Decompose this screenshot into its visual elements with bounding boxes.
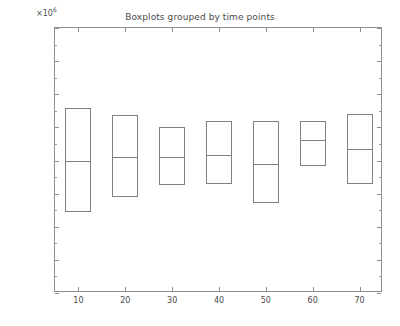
y-axis-tick bbox=[55, 127, 59, 128]
boxplot-median-line bbox=[65, 161, 91, 162]
y-axis-minor-tick bbox=[55, 144, 57, 145]
y-axis-minor-tick bbox=[379, 78, 381, 79]
x-axis-tick-label: 40 bbox=[204, 296, 234, 305]
x-axis-tick bbox=[360, 28, 361, 32]
y-axis-minor-tick bbox=[379, 243, 381, 244]
y-axis-tick bbox=[377, 161, 381, 162]
plot-area: 3.532.521.510.50-0.5 10203040506070 bbox=[54, 27, 382, 292]
boxplot-median-line bbox=[253, 164, 279, 165]
x-axis-tick-label: 10 bbox=[63, 296, 93, 305]
y-axis-minor-tick bbox=[379, 111, 381, 112]
boxplot-box bbox=[112, 115, 138, 196]
x-axis-tick bbox=[78, 28, 79, 32]
boxplot-median-line bbox=[206, 155, 232, 156]
y-axis-minor-tick bbox=[379, 210, 381, 211]
y-axis-tick bbox=[377, 61, 381, 62]
y-axis-tick bbox=[377, 293, 381, 294]
y-axis-tick bbox=[55, 61, 59, 62]
y-axis-minor-tick bbox=[55, 276, 57, 277]
boxplot-box bbox=[253, 121, 279, 203]
boxplot-box bbox=[206, 121, 232, 184]
y-axis-tick bbox=[55, 161, 59, 162]
x-axis-tick bbox=[313, 287, 314, 291]
y-axis-minor-tick bbox=[379, 144, 381, 145]
x-axis-tick bbox=[313, 28, 314, 32]
boxplot-median-line bbox=[300, 140, 326, 141]
y-axis-minor-tick bbox=[379, 276, 381, 277]
x-axis-tick bbox=[360, 287, 361, 291]
x-axis-tick-label: 50 bbox=[251, 296, 281, 305]
y-axis-minor-tick bbox=[55, 45, 57, 46]
y-axis-tick bbox=[377, 28, 381, 29]
exponent-power: 6 bbox=[53, 6, 57, 13]
boxplot-box bbox=[159, 127, 185, 185]
exponent-base: ×10 bbox=[36, 9, 53, 18]
x-axis-tick bbox=[219, 28, 220, 32]
x-axis-tick-label: 60 bbox=[298, 296, 328, 305]
y-axis-exponent-label: ×106 bbox=[36, 9, 57, 18]
boxplot-median-line bbox=[159, 157, 185, 158]
y-axis-minor-tick bbox=[379, 45, 381, 46]
x-axis-tick-label: 20 bbox=[110, 296, 140, 305]
boxplot-box bbox=[300, 121, 326, 166]
y-axis-tick bbox=[55, 293, 59, 294]
x-axis-tick-label: 70 bbox=[345, 296, 375, 305]
x-axis-tick bbox=[125, 287, 126, 291]
y-axis-tick bbox=[55, 227, 59, 228]
x-axis-tick-label: 30 bbox=[157, 296, 187, 305]
x-axis-tick bbox=[125, 28, 126, 32]
x-axis-tick bbox=[78, 287, 79, 291]
y-axis-minor-tick bbox=[55, 111, 57, 112]
y-axis-minor-tick bbox=[379, 177, 381, 178]
y-axis-tick bbox=[377, 227, 381, 228]
y-axis-tick bbox=[377, 194, 381, 195]
y-axis-tick bbox=[55, 28, 59, 29]
x-axis-tick bbox=[266, 287, 267, 291]
x-axis-tick bbox=[266, 28, 267, 32]
chart-title: Boxplots grouped by time points bbox=[0, 12, 400, 22]
y-axis-minor-tick bbox=[55, 210, 57, 211]
boxplot-median-line bbox=[347, 149, 373, 150]
y-axis-tick bbox=[377, 94, 381, 95]
y-axis-tick bbox=[377, 127, 381, 128]
boxplot-median-line bbox=[112, 157, 138, 158]
x-axis-tick bbox=[172, 28, 173, 32]
y-axis-minor-tick bbox=[55, 177, 57, 178]
y-axis-tick bbox=[55, 260, 59, 261]
x-axis-tick bbox=[172, 287, 173, 291]
y-axis-tick bbox=[55, 194, 59, 195]
chart-figure: Boxplots grouped by time points ×106 3.5… bbox=[0, 0, 400, 326]
y-axis-minor-tick bbox=[55, 243, 57, 244]
x-axis-tick bbox=[219, 287, 220, 291]
y-axis-tick bbox=[377, 260, 381, 261]
y-axis-minor-tick bbox=[55, 78, 57, 79]
y-axis-tick bbox=[55, 94, 59, 95]
